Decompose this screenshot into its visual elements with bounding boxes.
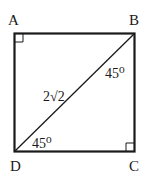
vertex-label-b: B [129,12,139,28]
angle-label-b: 45⁰ [105,66,125,81]
angle-label-d: 45⁰ [32,136,52,151]
vertex-label-c: C [129,158,139,174]
right-angle-marker-a [15,34,23,42]
diagonal-db [15,34,134,151]
diagonal-length-label: 2√2 [43,89,65,104]
vertex-label-d: D [10,158,21,174]
right-angle-marker-c [126,143,134,151]
vertex-label-a: A [8,12,19,28]
square-diagram: A B D C 2√2 45⁰ 45⁰ [0,0,146,177]
